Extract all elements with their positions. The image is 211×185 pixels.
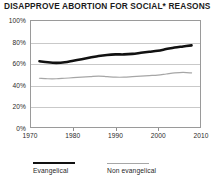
x-tick-mark-2000	[158, 128, 159, 131]
x-tick-label-2010: 2010	[193, 132, 208, 139]
y-tick-label-100%: 100%	[9, 17, 26, 24]
legend-label-non-evangelical: Non evangelical	[107, 167, 156, 174]
chart-legend: Evangelical Non evangelical	[33, 160, 208, 182]
plot-area	[30, 20, 201, 128]
y-tick-label-80%: 80%	[13, 38, 27, 45]
x-tick-mark-1990	[116, 128, 117, 131]
y-tick-label-40%: 40%	[13, 81, 27, 88]
series-layer	[31, 21, 200, 127]
series-line-non-evangelical	[39, 72, 191, 78]
x-tick-label-2000: 2000	[151, 132, 166, 139]
chart-card: DISAPPROVE ABORTION FOR SOCIAL* REASONS …	[0, 0, 211, 185]
legend-swatch-non-evangelical	[107, 163, 149, 164]
x-tick-mark-1980	[73, 128, 74, 131]
y-axis: 0%20%40%60%80%100%	[0, 20, 28, 128]
x-tick-label-1990: 1990	[108, 132, 123, 139]
legend-label-evangelical: Evangelical	[33, 167, 75, 174]
x-axis: 19701980199020002010	[30, 128, 201, 144]
y-tick-label-0%: 0%	[16, 125, 26, 132]
legend-swatch-evangelical	[33, 162, 75, 164]
y-tick-label-60%: 60%	[13, 60, 27, 67]
x-tick-label-1980: 1980	[65, 132, 80, 139]
x-tick-label-1970: 1970	[22, 132, 37, 139]
legend-item-evangelical: Evangelical	[33, 160, 75, 174]
series-line-evangelical	[39, 45, 191, 62]
y-tick-label-20%: 20%	[13, 103, 27, 110]
chart-title: DISAPPROVE ABORTION FOR SOCIAL* REASONS	[4, 1, 209, 11]
legend-item-non-evangelical: Non evangelical	[107, 160, 156, 174]
